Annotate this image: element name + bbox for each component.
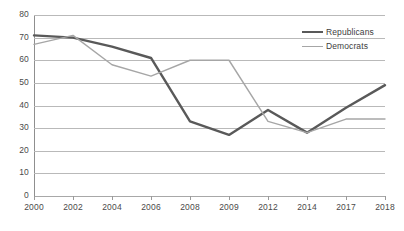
x-tick-label-2009: 2009 xyxy=(209,202,249,212)
x-tick-label-2002: 2002 xyxy=(53,202,93,212)
x-tick-label-2018: 2018 xyxy=(365,202,404,212)
x-tick-label-2014: 2014 xyxy=(287,202,327,212)
x-axis-labels: 2000200220042006200820092012201420172018 xyxy=(34,202,385,224)
x-tick-label-2000: 2000 xyxy=(14,202,54,212)
x-tick-2008 xyxy=(190,196,191,200)
x-tick-label-2004: 2004 xyxy=(92,202,132,212)
x-tick-label-2017: 2017 xyxy=(326,202,366,212)
x-tick-2014 xyxy=(307,196,308,200)
x-tick-2017 xyxy=(346,196,347,200)
x-tick-2009 xyxy=(229,196,230,200)
x-tick-2018 xyxy=(385,196,386,200)
legend-swatch-democrats-icon xyxy=(302,46,323,47)
x-tick-label-2012: 2012 xyxy=(248,202,288,212)
x-tick-2006 xyxy=(151,196,152,200)
chart-legend: Republicans Democrats xyxy=(302,25,398,53)
x-tick-2000 xyxy=(34,196,35,200)
x-tick-2012 xyxy=(268,196,269,200)
x-tick-label-2006: 2006 xyxy=(131,202,171,212)
legend-label-republicans: Republicans xyxy=(326,27,374,37)
legend-label-democrats: Democrats xyxy=(326,41,368,51)
x-tick-2002 xyxy=(73,196,74,200)
line-chart: 01020304050607080 2000200220042006200820… xyxy=(0,0,404,231)
x-tick-2004 xyxy=(112,196,113,200)
legend-item-republicans[interactable]: Republicans xyxy=(302,25,398,39)
x-tick-label-2008: 2008 xyxy=(170,202,210,212)
legend-item-democrats[interactable]: Democrats xyxy=(302,39,398,53)
legend-swatch-republicans-icon xyxy=(302,31,323,33)
